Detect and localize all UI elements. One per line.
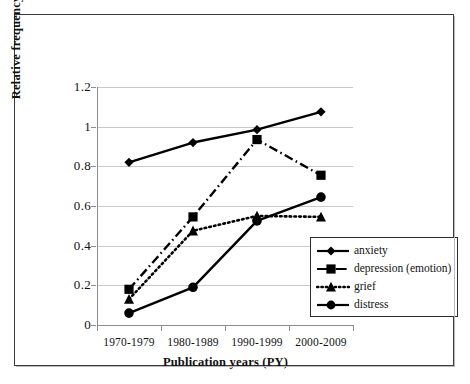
data-point bbox=[252, 216, 262, 226]
data-point bbox=[252, 135, 261, 144]
legend-marker-icon bbox=[316, 298, 350, 312]
legend-label: grief bbox=[354, 281, 376, 293]
legend-label: anxiety bbox=[354, 245, 388, 257]
data-point bbox=[316, 192, 326, 202]
chart-legend: anxietydepression (emotion)griefdistress bbox=[310, 237, 458, 317]
data-point bbox=[316, 171, 325, 180]
series-layer bbox=[15, 15, 470, 384]
data-point bbox=[188, 212, 197, 221]
legend-item-depression-emotion-[interactable]: depression (emotion) bbox=[316, 260, 453, 278]
data-point bbox=[124, 158, 133, 167]
series-distress bbox=[124, 192, 326, 318]
data-point bbox=[188, 283, 198, 293]
series-line bbox=[129, 112, 321, 163]
legend-label: depression (emotion) bbox=[354, 263, 451, 275]
legend-item-anxiety[interactable]: anxiety bbox=[316, 242, 453, 260]
data-point bbox=[124, 285, 133, 294]
series-grief bbox=[124, 211, 326, 304]
data-point bbox=[252, 125, 261, 134]
legend-marker-icon bbox=[316, 280, 350, 294]
legend-item-grief[interactable]: grief bbox=[316, 278, 453, 296]
figure-border: 00.20.40.60.811.2 Relative frequency (%)… bbox=[14, 14, 454, 366]
legend-label: distress bbox=[354, 299, 389, 311]
chart-figure: 00.20.40.60.811.2 Relative frequency (%)… bbox=[0, 0, 470, 384]
data-point bbox=[316, 107, 325, 116]
data-point bbox=[188, 138, 197, 147]
legend-marker-icon bbox=[316, 244, 350, 258]
data-point bbox=[124, 308, 134, 318]
series-anxiety bbox=[124, 107, 325, 167]
legend-marker-icon bbox=[316, 262, 350, 276]
series-line bbox=[129, 197, 321, 313]
legend-item-distress[interactable]: distress bbox=[316, 296, 453, 314]
